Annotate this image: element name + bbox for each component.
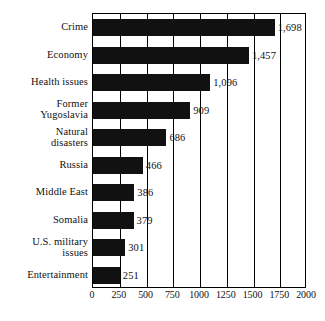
x-tick-label: 1500 (243, 289, 263, 301)
category-label: Naturaldisasters (0, 126, 88, 148)
category-label-line: disasters (0, 137, 88, 148)
category-label: Health issues (0, 76, 88, 87)
plot-area: 1,6981,4571,096909686466386379301251 (92, 13, 306, 288)
bar-value-label: 379 (137, 215, 153, 226)
bar-value-label: 386 (137, 187, 153, 198)
bar-value-label: 909 (193, 105, 209, 116)
bar-value-label: 466 (146, 160, 162, 171)
bar (93, 74, 210, 91)
bar-chart: CrimeEconomyHealth issuesFormerYugoslavi… (0, 0, 325, 321)
x-tick-label: 250 (111, 289, 126, 301)
category-label: Crime (0, 21, 88, 32)
bar (93, 129, 166, 146)
bar-value-label: 1,698 (278, 22, 302, 33)
bar (93, 212, 134, 229)
category-label: Economy (0, 49, 88, 60)
bar (93, 102, 190, 119)
bar-value-label: 251 (123, 270, 139, 281)
bar (93, 47, 249, 64)
category-label-line: Russia (0, 159, 88, 170)
x-tick-label: 500 (138, 289, 153, 301)
x-tick-label: 2000 (296, 289, 316, 301)
category-label-line: Former (0, 98, 88, 109)
bar-value-label: 1,096 (213, 77, 237, 88)
category-label: Russia (0, 159, 88, 170)
x-tick-label: 1750 (269, 289, 289, 301)
bar (93, 19, 275, 36)
category-label-line: Yugoslavia (0, 109, 88, 120)
x-tick-label: 1250 (216, 289, 236, 301)
category-label-line: issues (0, 247, 88, 258)
bar (93, 239, 125, 256)
category-label: Middle East (0, 186, 88, 197)
category-label: U.S. militaryissues (0, 236, 88, 258)
category-label-line: Economy (0, 49, 88, 60)
category-label-line: Middle East (0, 186, 88, 197)
bar (93, 157, 143, 174)
category-label: Somalia (0, 214, 88, 225)
category-label: FormerYugoslavia (0, 98, 88, 120)
x-axis: 025050075010001250150017502000 (92, 289, 306, 307)
bar-value-label: 1,457 (252, 50, 276, 61)
category-label-line: U.S. military (0, 236, 88, 247)
category-label-line: Health issues (0, 76, 88, 87)
x-tick-label: 750 (165, 289, 180, 301)
bar (93, 267, 120, 284)
category-axis-labels: CrimeEconomyHealth issuesFormerYugoslavi… (0, 13, 88, 288)
bar-value-label: 301 (128, 242, 144, 253)
gridline (280, 14, 281, 287)
bar-value-label: 686 (169, 132, 185, 143)
x-tick-label: 1000 (189, 289, 209, 301)
bar (93, 184, 134, 201)
category-label-line: Entertainment (0, 269, 88, 280)
category-label: Entertainment (0, 269, 88, 280)
category-label-line: Crime (0, 21, 88, 32)
category-label-line: Natural (0, 126, 88, 137)
category-label-line: Somalia (0, 214, 88, 225)
x-tick-label: 0 (90, 289, 95, 301)
